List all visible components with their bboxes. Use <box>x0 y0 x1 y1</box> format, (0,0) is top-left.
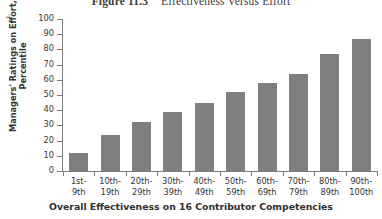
y-axis-tick: 70 <box>57 65 62 66</box>
x-axis-tick-label-line: 90th- <box>346 176 377 187</box>
y-axis-tick-label: 60 <box>43 74 54 85</box>
y-axis-tick: 20 <box>57 141 62 142</box>
x-axis-tick-label-line: 1st- <box>63 176 94 187</box>
y-axis-tick-label: 0 <box>49 165 54 176</box>
y-axis-tick: 0 <box>57 171 62 172</box>
bar <box>69 153 88 171</box>
figure-number: Figure 11.3 <box>92 0 148 7</box>
x-axis-tick-label-line: 40th- <box>189 176 220 187</box>
bar <box>163 112 182 171</box>
bar <box>226 92 245 171</box>
x-axis-tick-label-line: 89th <box>314 187 345 198</box>
y-axis-tick: 80 <box>57 49 62 50</box>
x-axis-tick-label: 40th-49th <box>189 176 220 198</box>
x-axis-tick-label: 80th-89th <box>314 176 345 198</box>
plot-area: 0102030405060708090100 <box>62 19 377 171</box>
y-axis-tick: 40 <box>57 110 62 111</box>
bar <box>289 74 308 171</box>
x-axis-tick <box>377 171 378 176</box>
bar-series <box>63 19 377 171</box>
x-axis-tick-label-line: 19th <box>94 187 125 198</box>
y-axis-tick: 10 <box>57 156 62 157</box>
x-axis-tick-label-line: 39th <box>157 187 188 198</box>
x-axis-tick-label-line: 20th- <box>126 176 157 187</box>
x-axis-tick-label-line: 59th <box>220 187 251 198</box>
x-axis-tick-label-line: 30th- <box>157 176 188 187</box>
x-axis-tick-label-line: 100th <box>346 187 377 198</box>
bar <box>320 54 339 171</box>
y-axis-tick-label: 90 <box>43 28 54 39</box>
y-axis-title: Managers' Ratings on Effort, Percentile <box>8 0 28 141</box>
y-axis-tick: 30 <box>57 125 62 126</box>
x-axis-tick-label: 1st-9th <box>63 176 94 198</box>
y-axis-tick-label: 100 <box>38 13 54 24</box>
bar <box>195 103 214 171</box>
x-axis-tick-label-line: 9th <box>63 187 94 198</box>
x-axis-tick-label-line: 49th <box>189 187 220 198</box>
x-axis-tick-label: 70th-79th <box>283 176 314 198</box>
y-axis-tick: 60 <box>57 80 62 81</box>
x-axis-tick-label: 30th-39th <box>157 176 188 198</box>
x-axis-tick-label-line: 79th <box>283 187 314 198</box>
x-axis-tick-label: 50th-59th <box>220 176 251 198</box>
y-axis-tick-label: 20 <box>43 135 54 146</box>
x-axis-title: Overall Effectiveness on 16 Contributor … <box>0 201 382 212</box>
x-axis-tick-label-line: 10th- <box>94 176 125 187</box>
bar <box>132 122 151 171</box>
x-axis-tick-label-line: 50th- <box>220 176 251 187</box>
x-axis-tick-label-line: 29th <box>126 187 157 198</box>
x-axis-tick-label: 60th-69th <box>251 176 282 198</box>
bar <box>352 39 371 171</box>
y-axis-tick-label: 80 <box>43 43 54 54</box>
x-axis-tick-label-line: 69th <box>251 187 282 198</box>
y-axis-tick: 90 <box>57 34 62 35</box>
x-axis-tick-label: 20th-29th <box>126 176 157 198</box>
bar <box>258 83 277 171</box>
y-axis-tick-label: 30 <box>43 119 54 130</box>
x-axis-tick-label-line: 60th- <box>251 176 282 187</box>
y-axis-tick: 50 <box>57 95 62 96</box>
x-axis-tick-label: 10th-19th <box>94 176 125 198</box>
x-axis-tick-label-line: 80th- <box>314 176 345 187</box>
figure-title: Figure 11.3Effectiveness Versus Effort <box>0 0 382 7</box>
x-axis-tick-labels: 1st-9th10th-19th20th-29th30th-39th40th-4… <box>62 176 377 200</box>
figure-title-text: Effectiveness Versus Effort <box>161 0 290 7</box>
y-axis-tick-label: 50 <box>43 89 54 100</box>
y-axis-tick-label: 10 <box>43 150 54 161</box>
figure-container: Figure 11.3Effectiveness Versus Effort ↲… <box>0 0 382 219</box>
x-axis-tick-label-line: 70th- <box>283 176 314 187</box>
bar <box>101 135 120 171</box>
x-axis-tick-label: 90th-100th <box>346 176 377 198</box>
y-axis-tick: 100 <box>57 19 62 20</box>
y-axis-tick-label: 40 <box>43 104 54 115</box>
y-axis-tick-label: 70 <box>43 59 54 70</box>
